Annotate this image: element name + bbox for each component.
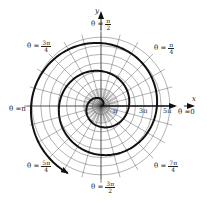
label-theta-pi-over-2: θ = π2: [91, 18, 111, 32]
label-theta-3pi-over-4: θ = 3π4: [27, 40, 51, 54]
x-axis-label: x: [192, 96, 196, 103]
y-axis-label: y: [95, 8, 99, 15]
radial-tick-3pi: 3π: [139, 108, 147, 115]
label-theta-pi: θ = π: [9, 106, 26, 113]
label-theta-3pi-over-2: θ = 3π2: [91, 181, 115, 195]
label-theta-5pi-over-4: θ = 5π4: [27, 160, 51, 174]
radial-tick-pi: π: [113, 108, 117, 115]
label-theta-7pi-over-4: θ = 7π4: [154, 160, 178, 174]
radial-tick-5pi: 5π: [163, 108, 171, 115]
label-theta-0: θ = 0: [178, 109, 195, 116]
polar-spiral-diagram: y x π 3π 5π θ = 0 θ = π4 θ = π2 θ = 3π4 …: [0, 0, 207, 204]
label-theta-pi-over-4: θ = π4: [154, 42, 174, 56]
